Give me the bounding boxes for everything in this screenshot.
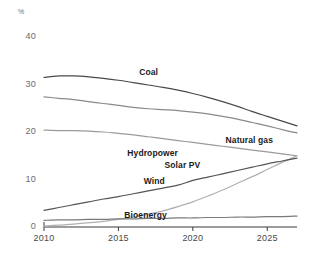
series-label-natural-gas: Natural gas: [226, 135, 273, 145]
y-axis-tick-label: 30: [14, 79, 36, 89]
y-axis-tick-label: 20: [14, 126, 36, 136]
series-label-solar-pv: Solar PV: [165, 160, 201, 170]
series-label-coal: Coal: [139, 67, 158, 77]
series-label-hydropower: Hydropower: [127, 148, 178, 158]
line-chart: % 0102030402010201520202025CoalNatural g…: [0, 0, 310, 257]
series-line-natural-gas: [44, 97, 297, 133]
y-axis-tick-label: 40: [14, 31, 36, 41]
series-line-bioenergy: [44, 216, 297, 220]
series-label-wind: Wind: [144, 176, 165, 186]
y-axis-tick-label: 10: [14, 174, 36, 184]
y-axis-tick-label: 0: [14, 221, 36, 231]
x-axis-tick-label: 2020: [173, 233, 213, 243]
x-axis-tick-label: 2010: [24, 233, 64, 243]
series-label-bioenergy: Bioenergy: [124, 210, 166, 220]
x-axis-tick-label: 2025: [247, 233, 287, 243]
x-axis-tick-label: 2015: [98, 233, 138, 243]
